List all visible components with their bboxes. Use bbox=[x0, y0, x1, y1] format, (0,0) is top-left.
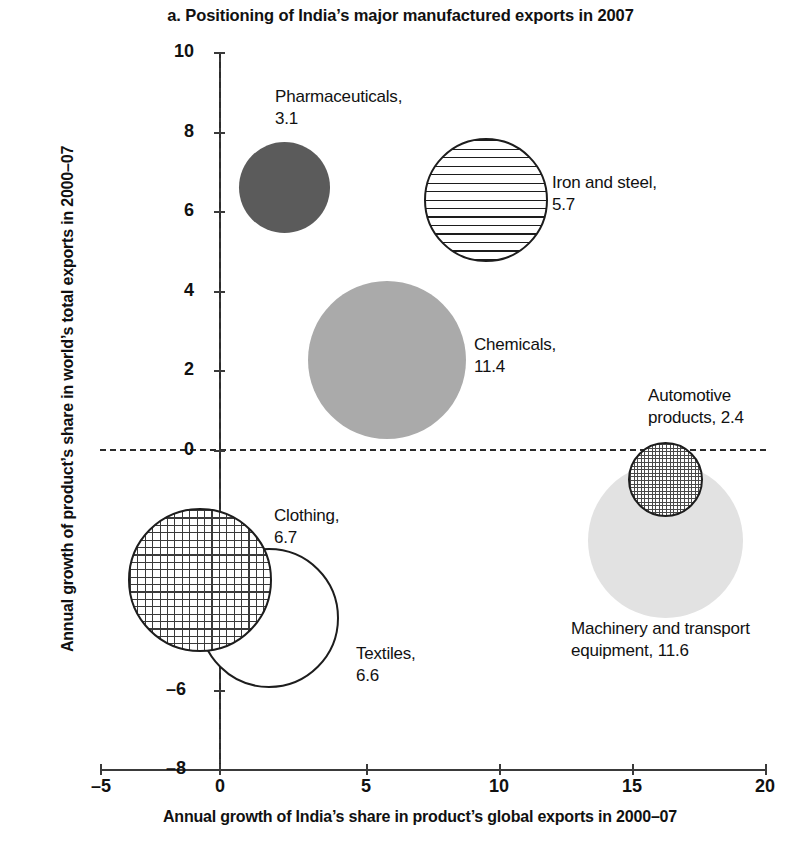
y-tick-4 bbox=[214, 291, 225, 293]
y-tick-label-2: 2 bbox=[150, 359, 194, 380]
x-tick-label-10: 10 bbox=[474, 776, 524, 797]
y-tick-label-6: 6 bbox=[150, 200, 194, 221]
y-tick-10 bbox=[214, 52, 225, 54]
x-axis-title: Annual growth of India’s share in produc… bbox=[80, 806, 760, 827]
bubble-label-machinery-and-transport-equipment: Machinery and transport equipment, 11.6 bbox=[571, 618, 801, 662]
x-tick-5 bbox=[366, 764, 368, 775]
x-tick-label-20: 20 bbox=[740, 776, 790, 797]
y-tick-label-10: 10 bbox=[150, 41, 194, 62]
x-tick-20 bbox=[765, 764, 767, 775]
bubble-label-chemicals: Chemicals, 11.4 bbox=[474, 334, 674, 378]
x-tick-10 bbox=[499, 764, 501, 775]
bubble-label-iron-and-steel: Iron and steel, 5.7 bbox=[552, 172, 782, 216]
bubble-chemicals[interactable] bbox=[308, 281, 466, 439]
bubble-chart: a. Positioning of India’s major manufact… bbox=[0, 0, 801, 861]
y-axis-title: Annual growth of product’s share in worl… bbox=[59, 49, 77, 749]
x-tick-label-minus5: –5 bbox=[76, 776, 126, 797]
y-tick-label-8: 8 bbox=[150, 121, 194, 142]
y-tick-label-0: 0 bbox=[150, 439, 194, 460]
y-tick-label-minus6: –6 bbox=[142, 679, 186, 700]
bubble-clothing[interactable] bbox=[128, 508, 272, 652]
x-axis-line bbox=[100, 769, 766, 771]
bubble-pharmaceuticals[interactable] bbox=[239, 142, 330, 233]
x-tick-minus5 bbox=[100, 764, 102, 775]
bubble-label-textiles: Textiles, 6.6 bbox=[356, 643, 536, 687]
x-tick-15 bbox=[632, 764, 634, 775]
bubble-automotive-products[interactable] bbox=[628, 442, 703, 517]
x-tick-0 bbox=[219, 764, 221, 775]
y-tick-minus6 bbox=[214, 690, 225, 692]
y-tick-6 bbox=[214, 211, 225, 213]
bubble-label-automotive-products: Automotive products, 2.4 bbox=[648, 385, 801, 429]
bubble-label-pharmaceuticals: Pharmaceuticals, 3.1 bbox=[275, 86, 485, 130]
y-tick-8 bbox=[214, 132, 225, 134]
y-tick-2 bbox=[214, 370, 225, 372]
x-tick-label-15: 15 bbox=[607, 776, 657, 797]
chart-title: a. Positioning of India’s major manufact… bbox=[0, 6, 801, 25]
x-tick-label-5: 5 bbox=[341, 776, 391, 797]
x-tick-label-0: 0 bbox=[195, 776, 245, 797]
bubble-label-clothing: Clothing, 6.7 bbox=[274, 505, 454, 549]
y-tick-0 bbox=[214, 450, 225, 452]
y-tick-label-minus8: –8 bbox=[142, 758, 186, 779]
y-tick-label-4: 4 bbox=[150, 280, 194, 301]
bubble-iron-and-steel[interactable] bbox=[424, 138, 548, 262]
